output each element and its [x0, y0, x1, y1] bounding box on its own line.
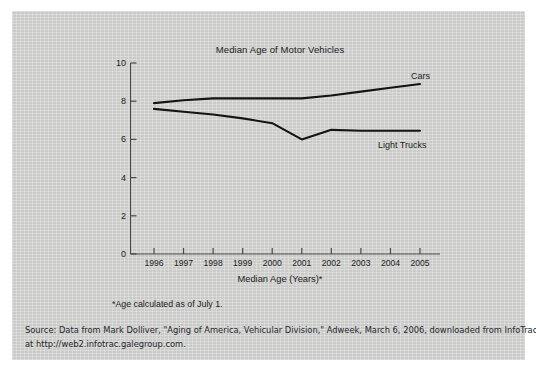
- x-tick-label: 2005: [410, 258, 429, 268]
- x-tick-label: 1999: [233, 258, 252, 268]
- axis-lines: [131, 63, 441, 254]
- y-tick-label: 8: [110, 96, 126, 106]
- x-axis-title: Median Age (Years)*: [110, 274, 450, 284]
- source-note-line-1: Source: Data from Mark Dolliver, "Aging …: [25, 324, 515, 338]
- chart-plot-svg: [130, 52, 450, 267]
- source-note-line-2: at http://web2.infotrac.galegroup.com.: [25, 338, 515, 352]
- x-tick-label: 1997: [174, 258, 193, 268]
- figure-panel: Median Age of Motor Vehicles 0246810 199…: [12, 11, 525, 360]
- chart-footnote: *Age calculated as of July 1.: [112, 299, 223, 309]
- x-tick-label: 2001: [292, 258, 311, 268]
- x-axis-tick-labels: 1996199719981999200020012002200320042005: [130, 258, 450, 274]
- y-tick-label: 0: [110, 249, 126, 259]
- x-tick-label: 2003: [351, 258, 370, 268]
- series-line-light-trucks: [154, 109, 420, 140]
- y-axis-ticks: [131, 63, 137, 254]
- source-note: Source: Data from Mark Dolliver, "Aging …: [25, 324, 515, 351]
- y-axis-tick-labels: 0246810: [108, 52, 126, 267]
- x-axis-ticks: [154, 248, 420, 254]
- y-tick-label: 10: [110, 58, 126, 68]
- x-tick-label: 2002: [322, 258, 341, 268]
- series-label-light-trucks: Light Trucks: [378, 140, 427, 150]
- series-label-cars: Cars: [411, 71, 430, 81]
- series-line-cars: [154, 84, 420, 103]
- x-tick-label: 1998: [204, 258, 223, 268]
- plot-area: [130, 52, 450, 267]
- y-tick-label: 2: [110, 211, 126, 221]
- y-tick-label: 6: [110, 134, 126, 144]
- x-tick-label: 2000: [263, 258, 282, 268]
- x-tick-label: 1996: [144, 258, 163, 268]
- y-tick-label: 4: [110, 173, 126, 183]
- x-tick-label: 2004: [381, 258, 400, 268]
